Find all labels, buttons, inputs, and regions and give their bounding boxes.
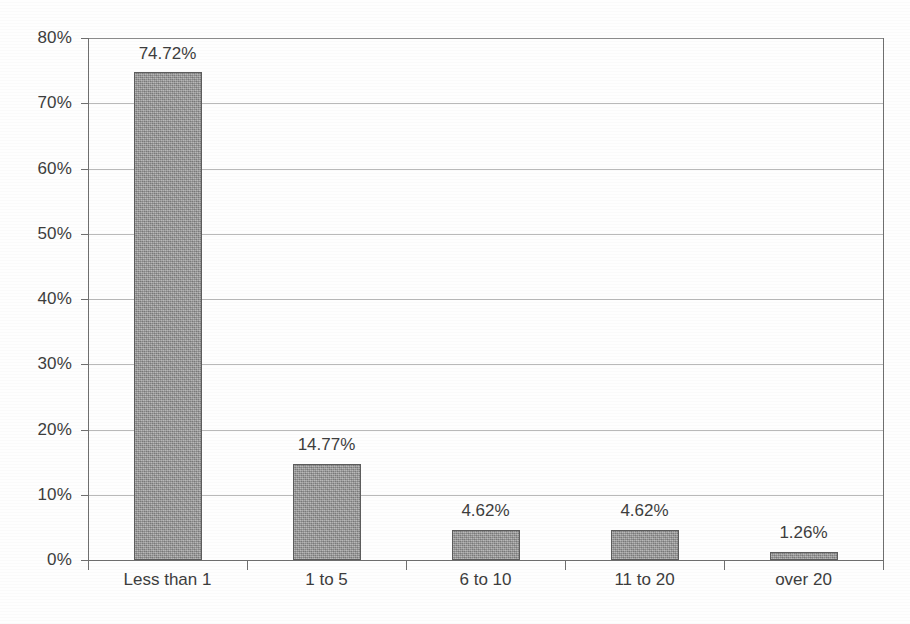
gridline-50 xyxy=(88,234,883,235)
y-tick-80 xyxy=(81,38,89,39)
y-axis-label-60: 60% xyxy=(37,159,72,179)
y-axis-label-30: 30% xyxy=(37,354,72,374)
gridline-70 xyxy=(88,103,883,104)
x-axis-label-less-than-1: Less than 1 xyxy=(124,570,212,590)
y-axis-label-80: 80% xyxy=(37,28,72,48)
gridline-60 xyxy=(88,169,883,170)
y-tick-20 xyxy=(81,430,89,431)
y-axis-label-40: 40% xyxy=(37,289,72,309)
y-axis-label-50: 50% xyxy=(37,224,72,244)
bar-value-label-1-to-5: 14.77% xyxy=(298,435,356,455)
x-tick-3 xyxy=(565,561,566,570)
x-axis-label-over-20: over 20 xyxy=(775,570,832,590)
gridline-20 xyxy=(88,430,883,431)
y-axis-label-20: 20% xyxy=(37,420,72,440)
gridline-40 xyxy=(88,299,883,300)
y-axis-label-0: 0% xyxy=(47,550,72,570)
x-tick-0 xyxy=(88,561,89,570)
bar-value-label-6-to-10: 4.62% xyxy=(461,501,509,521)
y-tick-40 xyxy=(81,299,89,300)
y-tick-30 xyxy=(81,364,89,365)
gridline-80 xyxy=(88,38,883,39)
bar-value-label-11-to-20: 4.62% xyxy=(620,501,668,521)
x-tick-1 xyxy=(247,561,248,570)
bar-chart: 80% 70% 60% 50% 40% 30% 20% 10% 0% Less … xyxy=(0,0,910,624)
x-tick-4 xyxy=(724,561,725,570)
y-axis-label-70: 70% xyxy=(37,93,72,113)
bar-11-to-20 xyxy=(611,530,679,560)
bar-less-than-1 xyxy=(134,72,202,560)
y-axis-label-10: 10% xyxy=(37,485,72,505)
bar-value-label-less-than-1: 74.72% xyxy=(139,44,197,64)
x-axis-label-11-to-20: 11 to 20 xyxy=(614,570,674,590)
x-axis-label-6-to-10: 6 to 10 xyxy=(460,570,512,590)
bar-6-to-10 xyxy=(452,530,520,560)
x-axis-label-1-to-5: 1 to 5 xyxy=(305,570,348,590)
bar-over-20 xyxy=(770,552,838,560)
bar-1-to-5 xyxy=(293,464,361,560)
bar-value-label-over-20: 1.26% xyxy=(779,523,827,543)
y-tick-70 xyxy=(81,103,89,104)
x-axis-line xyxy=(88,560,884,561)
y-tick-10 xyxy=(81,495,89,496)
y-tick-50 xyxy=(81,234,89,235)
gridline-30 xyxy=(88,364,883,365)
plot-area xyxy=(88,38,883,560)
gridline-10 xyxy=(88,495,883,496)
y-tick-60 xyxy=(81,169,89,170)
plot-right-border xyxy=(883,38,884,561)
x-tick-5 xyxy=(883,561,884,570)
x-tick-2 xyxy=(406,561,407,570)
